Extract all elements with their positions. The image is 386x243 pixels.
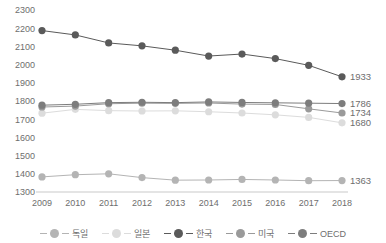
data-point (205, 52, 212, 59)
data-point (305, 100, 312, 107)
series-end-labels: 13631680193317341786 (350, 71, 371, 186)
legend-dash-icon (164, 233, 171, 234)
legend-dot-icon (298, 229, 307, 238)
legend-dash-icon (102, 233, 109, 234)
data-point (205, 108, 212, 115)
y-axis-ticks: 1300140015001600170018001900200021002200… (15, 5, 35, 197)
legend-dot-icon (236, 229, 245, 238)
data-point (205, 176, 212, 183)
series-한국 (38, 27, 345, 80)
data-point (338, 177, 345, 184)
data-point (205, 98, 212, 105)
series-line (42, 174, 342, 181)
x-tick-label: 2011 (99, 198, 118, 208)
legend-label: 미국 (258, 227, 274, 240)
data-point (172, 107, 179, 114)
y-tick-label: 1600 (15, 133, 35, 143)
data-point (72, 171, 79, 178)
legend-dash-icon (124, 233, 131, 234)
legend-dash-icon (248, 233, 255, 234)
y-tick-label: 1300 (15, 187, 35, 197)
legend-dash-icon (226, 233, 233, 234)
legend-item-OECD[interactable]: OECD (288, 229, 346, 239)
data-point (272, 55, 279, 62)
data-point (305, 114, 312, 121)
data-point (172, 99, 179, 106)
data-point (338, 119, 345, 126)
y-tick-label: 1800 (15, 96, 35, 106)
data-point (38, 27, 45, 34)
legend-label: OECD (320, 229, 346, 239)
y-tick-label: 1500 (15, 151, 35, 161)
data-point (305, 62, 312, 69)
data-point (38, 173, 45, 180)
legend-item-미국[interactable]: 미국 (226, 227, 274, 240)
series-line (42, 31, 342, 77)
line-chart: 1300140015001600170018001900200021002200… (0, 0, 386, 243)
series-line (42, 109, 342, 122)
x-tick-label: 2012 (132, 198, 152, 208)
data-point (238, 176, 245, 183)
data-point (72, 31, 79, 38)
legend-item-일본[interactable]: 일본 (102, 227, 150, 240)
series-독일 (38, 170, 345, 184)
y-tick-label: 2300 (15, 5, 35, 15)
data-point (272, 99, 279, 106)
data-point (138, 174, 145, 181)
data-point (138, 99, 145, 106)
legend-dash-icon (186, 233, 193, 234)
x-tick-label: 2016 (265, 198, 285, 208)
data-point (38, 110, 45, 117)
y-tick-label: 1900 (15, 78, 35, 88)
x-tick-label: 2010 (65, 198, 85, 208)
legend-label: 한국 (196, 227, 212, 240)
data-point (105, 39, 112, 46)
data-point (38, 102, 45, 109)
data-point (172, 47, 179, 54)
legend-dash-icon (62, 233, 69, 234)
y-tick-label: 2100 (15, 42, 35, 52)
end-value-label: 1734 (350, 107, 371, 118)
x-tick-label: 2015 (232, 198, 252, 208)
legend-dash-icon (310, 233, 317, 234)
data-point (238, 99, 245, 106)
y-tick-label: 1700 (15, 115, 35, 125)
series-일본 (38, 106, 345, 127)
y-tick-label: 1400 (15, 169, 35, 179)
y-tick-label: 2200 (15, 24, 35, 34)
y-tick-label: 2000 (15, 60, 35, 70)
end-value-label: 1363 (350, 175, 371, 186)
data-point (305, 177, 312, 184)
legend-dot-icon (174, 229, 183, 238)
data-series-group (38, 27, 345, 184)
data-point (338, 100, 345, 107)
legend-dot-icon (50, 229, 59, 238)
data-point (105, 99, 112, 106)
end-value-label: 1786 (350, 98, 371, 109)
data-point (172, 177, 179, 184)
legend-dot-icon (112, 229, 121, 238)
x-tick-label: 2018 (332, 198, 352, 208)
end-value-label: 1680 (350, 117, 371, 128)
data-point (338, 109, 345, 116)
data-point (138, 107, 145, 114)
legend-item-한국[interactable]: 한국 (164, 227, 212, 240)
data-point (272, 111, 279, 118)
legend-label: 일본 (134, 227, 150, 240)
data-point (338, 73, 345, 80)
data-point (238, 109, 245, 116)
x-axis-ticks: 2009201020112012201320142015201620172018 (32, 198, 352, 208)
data-point (272, 176, 279, 183)
x-tick-label: 2013 (165, 198, 185, 208)
data-point (72, 101, 79, 108)
data-point (138, 42, 145, 49)
x-tick-label: 2009 (32, 198, 52, 208)
end-value-label: 1933 (350, 71, 371, 82)
x-tick-label: 2014 (199, 198, 219, 208)
legend-item-독일[interactable]: 독일 (40, 227, 88, 240)
data-point (105, 170, 112, 177)
chart-legend: 독일일본한국미국OECD (0, 227, 386, 240)
data-point (238, 50, 245, 57)
legend-dash-icon (288, 233, 295, 234)
legend-label: 독일 (72, 227, 88, 240)
